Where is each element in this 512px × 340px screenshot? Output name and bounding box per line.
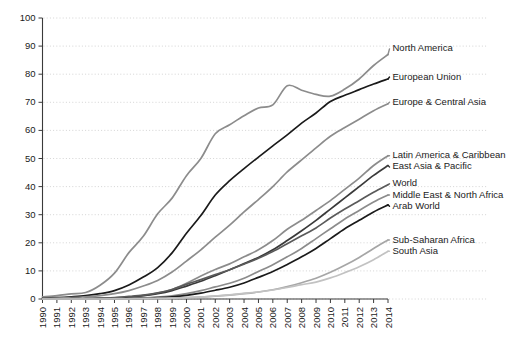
y-axis-tick-label: 80 (25, 68, 36, 79)
x-axis-tick-label: 2011 (339, 307, 350, 327)
x-axis-tick-label: 1994 (95, 307, 106, 328)
internet-usage-line-chart: 0102030405060708090100 19901991199219931… (0, 0, 512, 340)
x-axis-tick-label: 2003 (224, 307, 235, 328)
x-axis-tick-label: 1990 (37, 307, 48, 328)
x-axis-tick-label: 2014 (383, 307, 394, 328)
y-axis-tick-label: 0 (30, 293, 35, 304)
x-axis-tick-label: 1996 (123, 307, 134, 328)
series-line (43, 205, 389, 299)
series-leader-line (388, 102, 390, 103)
x-axis-tick-label: 2008 (296, 307, 307, 328)
series-leader-line (388, 166, 390, 167)
x-axis-tick-label: 1995 (109, 307, 120, 328)
x-axis-tick-label: 2012 (354, 307, 365, 328)
x-axis-tick-label: 1992 (66, 307, 77, 328)
series-line (43, 79, 389, 298)
series-label: South Asia (393, 245, 439, 256)
x-axis-tick-label: 2002 (210, 307, 221, 328)
series-label: European Union (393, 71, 462, 82)
x-axis-tick-label: 2000 (181, 307, 192, 328)
x-axis-tick-label: 2013 (368, 307, 379, 328)
y-axis-tick-label: 70 (25, 96, 36, 107)
y-axis-tick-label: 10 (25, 265, 36, 276)
series-label: Latin America & Caribbean (393, 149, 506, 160)
y-axis-tick-label: 50 (25, 153, 36, 164)
series-line (43, 55, 389, 297)
series-label: World (393, 177, 418, 188)
x-axis-tick-label: 2005 (253, 307, 264, 328)
series-leader-line (388, 184, 390, 185)
series-line (43, 195, 389, 299)
x-axis-tick-label: 1993 (80, 307, 91, 328)
x-axis: 1990199119921993199419951996199719981999… (37, 299, 394, 328)
series-label: Arab World (393, 200, 440, 211)
series-label: Europe & Central Asia (393, 96, 487, 107)
data-series-lines (43, 55, 389, 299)
y-axis-tick-label: 100 (20, 12, 36, 23)
chart-canvas: 0102030405060708090100 19901991199219931… (0, 0, 512, 340)
y-axis-tick-label: 20 (25, 237, 36, 248)
x-axis-tick-label: 2010 (325, 307, 336, 328)
x-axis-tick-label: 2004 (239, 307, 250, 328)
series-leader-line (388, 77, 390, 79)
series-label: East Asia & Pacific (393, 160, 472, 171)
series-leader-line (388, 49, 390, 55)
y-axis-tick-label: 90 (25, 40, 36, 51)
series-label: North America (393, 42, 454, 53)
x-axis-tick-label: 2007 (282, 307, 293, 328)
series-label: Sub-Saharan Africa (393, 234, 476, 245)
x-axis-tick-label: 1997 (138, 307, 149, 328)
x-axis-tick-label: 2006 (267, 307, 278, 328)
series-label: Middle East & North Africa (393, 189, 505, 200)
series-line (43, 185, 389, 299)
x-axis-tick-label: 2001 (195, 307, 206, 328)
x-axis-tick-label: 2009 (311, 307, 322, 328)
y-axis: 0102030405060708090100 (20, 12, 43, 304)
series-line (43, 166, 389, 299)
series-leader-line (388, 205, 390, 206)
x-axis-tick-label: 1998 (152, 307, 163, 328)
x-axis-tick-label: 1991 (51, 307, 62, 328)
series-labels: North AmericaEuropean UnionEurope & Cent… (393, 42, 506, 255)
x-axis-tick-label: 1999 (167, 307, 178, 328)
y-axis-tick-label: 40 (25, 181, 36, 192)
y-axis-tick-label: 60 (25, 124, 36, 135)
series-line (43, 156, 389, 299)
y-axis-tick-label: 30 (25, 209, 36, 220)
